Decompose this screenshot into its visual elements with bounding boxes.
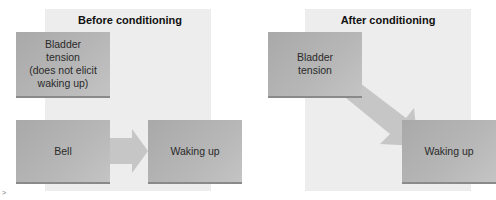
after-bladder-tension-label: Bladder tension [297,51,333,77]
right-arrow-icon [110,129,150,173]
after-conditioning-title: After conditioning [318,14,458,26]
before-conditioning-title: Before conditioning [60,14,200,26]
corner-mark: > [2,189,6,196]
after-waking-up-label: Waking up [424,145,473,158]
bell-box: Bell [16,120,110,184]
after-bladder-tension-box: Bladder tension [268,32,362,98]
before-bladder-tension-label: Bladder tension (does not elicit waking … [29,38,97,90]
bell-label: Bell [54,145,72,158]
before-waking-up-box: Waking up [148,120,242,184]
before-waking-up-label: Waking up [170,145,219,158]
before-bladder-tension-box: Bladder tension (does not elicit waking … [16,32,110,98]
after-waking-up-box: Waking up [402,120,496,184]
